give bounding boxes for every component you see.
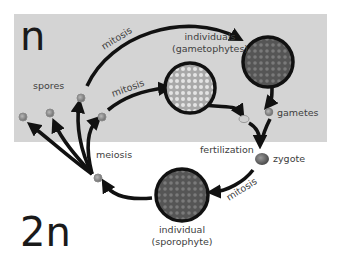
zygote — [255, 153, 269, 165]
spore-4 — [98, 113, 106, 121]
spores-label: spores — [33, 80, 64, 91]
sporophyte — [156, 169, 208, 221]
meiosis-cell — [94, 174, 102, 182]
sporophyte-label-line2: (sporophyte) — [152, 236, 213, 247]
gametophyte-light — [165, 63, 215, 113]
gamete-dark — [265, 108, 273, 116]
fertilization-label: fertilization — [200, 144, 254, 155]
zygote-label: zygote — [273, 153, 305, 164]
meiosis-label: meiosis — [96, 149, 132, 160]
life-cycle-diagram: n 2n spores mitosis mitosis individuals … — [0, 0, 341, 263]
spore-2 — [46, 109, 54, 117]
gamete-light — [239, 115, 249, 122]
sporophyte-to-meiosis-arrow — [105, 184, 152, 198]
diploid-label: 2n — [20, 209, 71, 255]
gametophytes-label-line2: (gametophytes) — [172, 43, 248, 54]
sporophyte-label-line1: individual — [159, 224, 205, 235]
haploid-label: n — [20, 13, 45, 59]
gametophytes-label-line1: individuals — [184, 31, 235, 42]
gametophyte-dark — [243, 37, 293, 87]
gametes-label: gametes — [277, 107, 319, 118]
spore-3 — [77, 94, 85, 102]
spore-1 — [19, 113, 27, 121]
